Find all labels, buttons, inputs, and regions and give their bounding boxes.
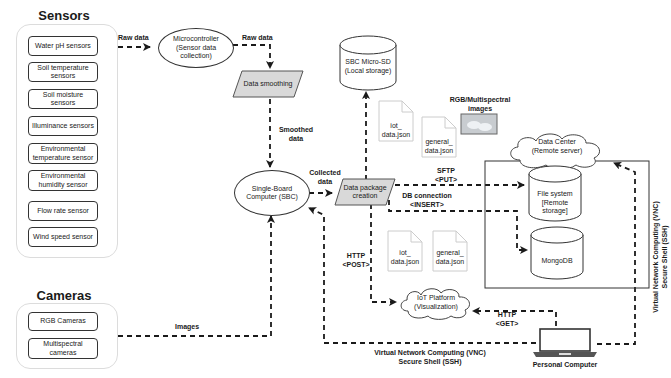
laptop-icon xyxy=(532,328,598,358)
edge-label-vnc-bottom-1: Virtual Network Computing (VNC) xyxy=(350,349,510,358)
edge-label-collected-data: Collected data xyxy=(308,169,342,186)
edge-label-raw-data-2: Raw data xyxy=(242,34,273,43)
sensor-soil-temperature: Soil temperature sensors xyxy=(28,62,98,82)
sensor-water-ph: Water pH sensors xyxy=(28,36,98,56)
camera-rgb: RGB Cameras xyxy=(28,312,98,331)
iot-platform-node: IoT Platform (Visualization) xyxy=(404,294,468,311)
edge-label-db-connection: DB connection <INSERT> xyxy=(395,192,459,209)
microcontroller-node: Microcontroller (Sensor data collection) xyxy=(158,28,234,68)
sensors-group-title: Sensors xyxy=(14,8,114,23)
image-icon xyxy=(460,113,498,135)
mongodb-cylinder xyxy=(530,226,584,280)
sensor-illuminance: Illuminance sensors xyxy=(28,116,98,136)
edge-label-sftp: SFTP <PUT> xyxy=(431,167,461,184)
sbc-node: Single-Board Computer (SBC) xyxy=(234,170,310,216)
rgb-images-label: RGB/Multispectral images xyxy=(447,96,513,113)
sensor-flow-rate: Flow rate sensor xyxy=(28,201,98,221)
doc-bottom-general: general_ data.json xyxy=(431,249,469,266)
edge-label-http-get: HTTP <GET> xyxy=(494,311,520,328)
data-smoothing-node: Data smoothing xyxy=(236,70,300,98)
sensor-environmental-temperature: Environmental temperature sensor xyxy=(28,143,98,164)
edge-label-vnc-bottom-2: Secure Shell (SSH) xyxy=(350,358,510,367)
edge-label-smoothed-data: Smoothed data xyxy=(275,126,317,143)
sensor-environmental-humidity: Environmental humidity sensor xyxy=(28,170,98,191)
file-system-node: File system [Remote storage] xyxy=(532,190,578,216)
camera-multispectral: Multispectral cameras xyxy=(28,338,98,359)
sensor-soil-moisture: Soil moisture sensors xyxy=(28,89,98,109)
edge-label-vnc-right: Virtual Network Computing (VNC) Secure S… xyxy=(652,182,670,332)
doc-top-iot: iot_ data.json xyxy=(379,122,413,139)
sensors-group: Water pH sensors Soil temperature sensor… xyxy=(16,24,118,258)
personal-computer-label: Personal Computer xyxy=(520,361,610,370)
edge-label-images: Images xyxy=(175,323,199,332)
doc-top-general: general_ data.json xyxy=(420,138,458,155)
edge-label-raw-data-1: Raw data xyxy=(118,34,149,43)
micro-sd-node: SBC Micro-SD (Local storage) xyxy=(341,58,395,75)
data-package-node: Data package creation xyxy=(338,178,392,206)
doc-bottom-iot: iot_ data.json xyxy=(388,249,422,266)
edge-label-http-post: HTTP <POST> xyxy=(341,252,371,269)
edge-label-vnc-right-1: Virtual Network Computing (VNC) xyxy=(652,182,661,332)
sensor-wind-speed: Wind speed sensor xyxy=(28,227,98,247)
mongodb-node: MongoDB xyxy=(532,257,582,266)
cameras-group: RGB Cameras Multispectral cameras xyxy=(16,303,118,369)
cameras-group-title: Cameras xyxy=(14,288,114,303)
edge-label-vnc-right-2: Secure Shell (SSH) xyxy=(661,182,670,332)
data-center-node: Data Center (Remote server) xyxy=(526,138,588,155)
